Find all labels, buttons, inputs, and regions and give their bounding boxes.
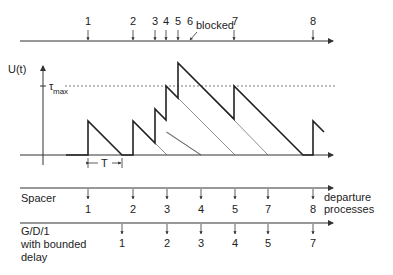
spacer-dep-5: 5 (232, 203, 238, 215)
departure-caption-1: departure (324, 191, 371, 203)
arrival-label-2: 2 (130, 15, 136, 27)
workload-plot: U(t) τ max T (8, 63, 335, 169)
arrival-label-7: 7 (232, 15, 238, 27)
gd1-dep-1: 1 (119, 237, 125, 249)
gd1-dep-2: 2 (164, 237, 170, 249)
spacer-dep-8: 8 (310, 203, 316, 215)
gd1-label-line2: with bounded (20, 238, 86, 250)
spacer-axis: Spacer 1 2 3 4 5 7 8 departure processes (20, 188, 375, 215)
spacer-dep-3: 3 (164, 203, 170, 215)
spacer-dep-2: 2 (130, 203, 136, 215)
arrival-label-4: 4 (163, 15, 169, 27)
arrival-axis: 1 2 3 4 5 6 blocked 7 8 (20, 15, 333, 41)
gd1-label-line1: G/D/1 (21, 225, 50, 237)
diagram-canvas: 1 2 3 4 5 6 blocked 7 8 U(t) τ max (0, 0, 393, 275)
spacer-label: Spacer (21, 192, 56, 204)
arrival-label-1: 1 (85, 15, 91, 27)
arrival-label-8: 8 (310, 15, 316, 27)
arrival-label-5: 5 (175, 15, 181, 27)
gd1-dep-3: 3 (198, 237, 204, 249)
arrival-label-6: 6 (187, 15, 193, 27)
spacer-dep-4: 4 (198, 203, 204, 215)
arrival-label-3: 3 (152, 15, 158, 27)
gd1-dep-7: 7 (310, 237, 316, 249)
tau-sub-label: max (53, 87, 68, 96)
period-label: T (101, 157, 108, 169)
gd1-dep-5: 5 (265, 237, 271, 249)
y-axis-label: U(t) (8, 63, 26, 75)
gd1-label-line3: delay (21, 251, 48, 263)
spacer-dep-7: 7 (265, 203, 271, 215)
departure-caption-2: processes (324, 203, 375, 215)
gd1-dep-4: 4 (232, 237, 238, 249)
blocked-label: blocked (196, 19, 234, 31)
spacer-dep-1: 1 (85, 203, 91, 215)
gd1-axis: G/D/1 with bounded delay 1 2 3 4 5 7 (20, 223, 333, 263)
